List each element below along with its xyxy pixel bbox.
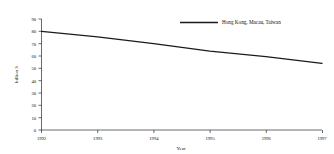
chart-canvas: 90 80 70 60 50 40 30 20 10 0 1992 1993 1… — [0, 0, 334, 154]
y-axis-title: billion $ — [14, 66, 19, 83]
x-tick-label: 1993 — [93, 136, 103, 141]
series-line-hong-kong-macau-taiwan — [42, 31, 323, 63]
x-axis-title: Year — [176, 146, 186, 151]
y-tick-label: 70 — [31, 42, 36, 47]
y-tick-label: 60 — [31, 54, 36, 59]
x-tick-label: 1994 — [149, 136, 159, 141]
y-tick-label: 40 — [31, 79, 36, 84]
y-tick-label: 50 — [31, 66, 36, 71]
y-tick-label: 0 — [34, 128, 37, 133]
y-tick-label: 30 — [31, 91, 36, 96]
x-tick-label: 1995 — [206, 136, 216, 141]
y-tick-label: 10 — [31, 116, 36, 121]
line-chart: 90 80 70 60 50 40 30 20 10 0 1992 1993 1… — [0, 0, 334, 154]
x-tick-label: 1992 — [37, 136, 47, 141]
y-tick-label: 80 — [31, 29, 36, 34]
y-tick-label: 90 — [31, 17, 36, 22]
x-tick-label: 1996 — [262, 136, 272, 141]
legend-label: Hong Kong, Macau, Taiwan — [222, 19, 281, 25]
y-tick-label: 20 — [31, 103, 36, 108]
x-tick-label: 1997 — [317, 136, 327, 141]
